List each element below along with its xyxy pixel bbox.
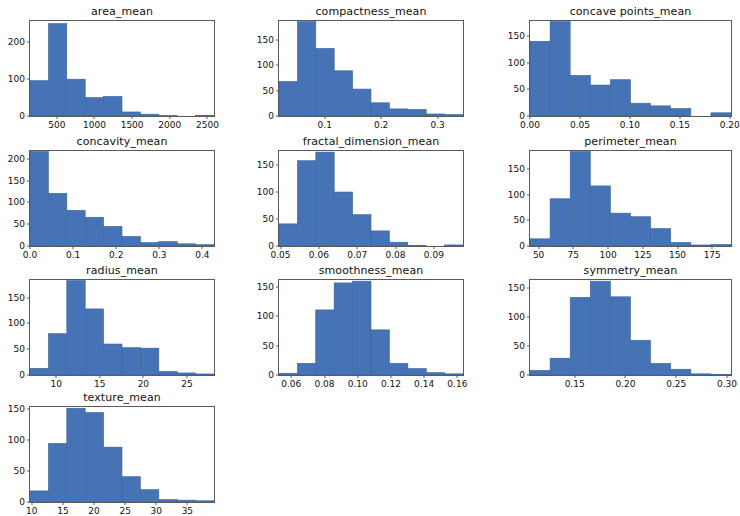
histogram-bar xyxy=(67,79,85,116)
subplot-title: symmetry_mean xyxy=(529,264,732,277)
y-axis-tick-label: 150 xyxy=(257,161,279,170)
histogram-bar xyxy=(389,242,407,246)
y-axis-tick-mark xyxy=(527,168,530,169)
y-axis-tick-label: 100 xyxy=(8,75,30,84)
histogram-bar xyxy=(610,213,630,246)
y-axis-tick-mark xyxy=(276,39,279,40)
subplot-title: fractal_dimension_mean xyxy=(278,135,464,148)
histogram-bar xyxy=(140,243,158,246)
y-axis-tick-mark xyxy=(276,192,279,193)
y-axis-tick-label: 0 xyxy=(519,242,530,251)
x-axis-tick-label: 0.06 xyxy=(281,375,301,389)
histogram-bar xyxy=(140,490,158,502)
axes-frame: 05010015010152025 xyxy=(29,279,215,376)
histogram-bar xyxy=(177,244,195,246)
x-axis-tick-mark xyxy=(357,375,358,378)
x-axis-tick-label: 75 xyxy=(568,246,579,260)
histogram-bars xyxy=(30,151,214,246)
x-axis-tick-mark xyxy=(116,246,117,249)
x-axis-tick-label: 0.05 xyxy=(271,246,291,260)
x-axis-tick-label: 0.2 xyxy=(374,116,388,130)
histogram-bar xyxy=(67,210,85,246)
x-axis-tick-label: 0.1 xyxy=(66,246,80,260)
y-axis-tick-mark xyxy=(527,346,530,347)
x-axis-tick-label: 30 xyxy=(151,502,162,516)
subplot-title: texture_mean xyxy=(29,391,215,404)
y-axis-tick-mark xyxy=(27,246,30,247)
histogram-bar xyxy=(445,245,463,246)
histogram-bar xyxy=(297,363,315,375)
histogram-bar xyxy=(631,103,651,116)
y-axis-tick-mark xyxy=(527,317,530,318)
histogram-bar xyxy=(196,245,214,246)
histogram-bar xyxy=(570,152,590,246)
histogram-bars xyxy=(530,21,731,116)
x-axis-tick-label: 0.20 xyxy=(615,375,635,389)
y-axis-tick-label: 100 xyxy=(257,188,279,197)
x-axis-tick-mark xyxy=(530,116,531,119)
histogram-bar xyxy=(122,112,140,116)
y-axis-tick-mark xyxy=(27,42,30,43)
x-axis-tick-mark xyxy=(207,116,208,119)
y-axis-tick-mark xyxy=(27,158,30,159)
x-axis-tick-label: 0.2 xyxy=(109,246,123,260)
x-axis-tick-label: 35 xyxy=(182,502,193,516)
histogram-bar xyxy=(389,109,407,116)
y-axis-tick-mark xyxy=(27,502,30,503)
y-axis-tick-mark xyxy=(27,375,30,376)
histogram-bar xyxy=(371,231,389,246)
x-axis-tick-mark xyxy=(324,375,325,378)
x-axis-tick-mark xyxy=(433,246,434,249)
x-axis-tick-mark xyxy=(679,116,680,119)
subplot-title: area_mean xyxy=(29,5,215,18)
histogram-bar xyxy=(408,245,426,246)
y-axis-tick-label: 0 xyxy=(519,371,530,380)
histogram-bar xyxy=(550,22,570,116)
y-axis-tick-label: 150 xyxy=(508,284,530,293)
y-axis-tick-mark xyxy=(276,219,279,220)
y-axis-tick-label: 150 xyxy=(508,31,530,40)
histogram-bar xyxy=(104,226,122,246)
histogram-bar xyxy=(408,109,426,116)
histogram-bar xyxy=(104,447,122,502)
histogram-bar xyxy=(177,500,195,502)
x-axis-tick-label: 25 xyxy=(181,375,192,389)
histogram-bar xyxy=(426,114,444,116)
subplot-title: concavity_mean xyxy=(29,135,215,148)
histogram-bar xyxy=(711,374,731,375)
histogram-bar xyxy=(30,368,48,375)
y-axis-tick-label: 50 xyxy=(514,85,530,94)
histogram-bar xyxy=(30,151,48,246)
x-axis-tick-mark xyxy=(574,375,575,378)
x-axis-tick-label: 0.0 xyxy=(23,246,37,260)
histogram-bar xyxy=(85,309,103,375)
y-axis-tick-mark xyxy=(276,375,279,376)
y-axis-tick-label: 50 xyxy=(263,86,279,95)
histogram-bar xyxy=(530,370,550,375)
x-axis-tick-label: 0.3 xyxy=(152,246,166,260)
x-axis-tick-mark xyxy=(73,246,74,249)
x-axis-tick-mark xyxy=(357,246,358,249)
y-axis-tick-mark xyxy=(276,90,279,91)
x-axis-tick-label: 15 xyxy=(94,375,105,389)
x-axis-tick-mark xyxy=(291,375,292,378)
histogram-bar xyxy=(570,297,590,375)
histogram-bar xyxy=(104,96,122,116)
y-axis-tick-label: 150 xyxy=(8,176,30,185)
y-axis-tick-mark xyxy=(27,180,30,181)
histogram-bar xyxy=(353,215,371,246)
histogram-bar xyxy=(122,477,140,502)
histogram-bar xyxy=(85,98,103,116)
histogram-bar xyxy=(610,297,630,375)
x-axis-tick-mark xyxy=(187,502,188,505)
subplot-title: concave points_mean xyxy=(529,5,732,18)
histogram-bar xyxy=(371,330,389,375)
x-axis-tick-label: 0.05 xyxy=(570,116,590,130)
x-axis-tick-mark xyxy=(579,116,580,119)
histogram-bar xyxy=(104,344,122,375)
subplot-title: perimeter_mean xyxy=(529,135,732,148)
histogram-bar xyxy=(67,408,85,502)
